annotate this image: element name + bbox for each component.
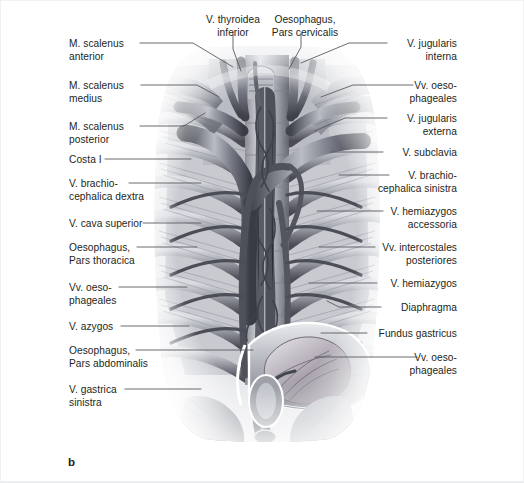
anatomy-figure-panel: V. thyroidea inferior Oesophagus, Pars c… bbox=[0, 0, 524, 483]
label-oesophagus-pars-abdominalis: Oesophagus, Pars abdominalis bbox=[69, 344, 148, 371]
thoracic-venous-system-illustration bbox=[149, 45, 385, 443]
label-v-jugularis-externa: V. jugularis externa bbox=[407, 112, 457, 139]
label-fundus-gastricus: Fundus gastricus bbox=[379, 327, 457, 340]
label-v-jugularis-interna: V. jugularis interna bbox=[407, 37, 457, 64]
label-vv-oesophageales-left: Vv. oeso- phageales bbox=[69, 281, 116, 308]
label-v-azygos: V. azygos bbox=[69, 320, 113, 333]
label-v-hemiazygos: V. hemiazygos bbox=[390, 277, 457, 290]
label-v-subclavia: V. subclavia bbox=[402, 146, 457, 159]
label-diaphragma: Diaphragma bbox=[401, 301, 457, 314]
label-vv-intercostales-posteriores: Vv. intercostales posteriores bbox=[382, 241, 457, 268]
label-v-cava-superior: V. cava superior bbox=[69, 217, 142, 230]
label-v-gastrica-sinistra: V. gastrica sinistra bbox=[69, 383, 117, 410]
label-m-scalenus-posterior: M. scalenus posterior bbox=[69, 120, 124, 147]
label-m-scalenus-medius: M. scalenus medius bbox=[69, 79, 124, 106]
label-v-brachiocephalica-dextra: V. brachio- cephalica dextra bbox=[69, 177, 144, 204]
label-oesophagus-pars-thoracica: Oesophagus, Pars thoracica bbox=[69, 241, 135, 268]
label-vv-oesophageales-upper-right: Vv. oeso- phageales bbox=[410, 79, 457, 106]
label-vv-oesophageales-lower-right: Vv. oeso- phageales bbox=[410, 351, 457, 378]
panel-letter-b: b bbox=[68, 456, 75, 468]
label-oesophagus-pars-cervicalis: Oesophagus, Pars cervicalis bbox=[257, 13, 353, 40]
label-v-hemiazygos-accessoria: V. hemiazygos accessoria bbox=[390, 205, 457, 232]
label-v-brachiocephalica-sinistra: V. brachio- cephalica sinistra bbox=[378, 169, 457, 196]
label-m-scalenus-anterior: M. scalenus anterior bbox=[69, 37, 124, 64]
label-costa-i: Costa I bbox=[69, 153, 102, 166]
